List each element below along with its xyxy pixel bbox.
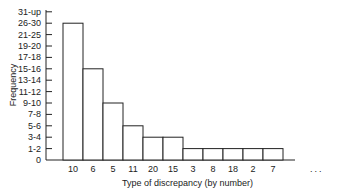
y-tick-label: 17-18 bbox=[1, 52, 41, 62]
x-category-label: 10 bbox=[63, 164, 83, 174]
histogram-bar bbox=[163, 137, 183, 160]
y-axis-label: Frequency bbox=[8, 64, 18, 107]
y-tick-label: 21-25 bbox=[1, 30, 41, 40]
y-tick-label: 26-30 bbox=[1, 18, 41, 28]
y-tick-label: 5-6 bbox=[1, 121, 41, 131]
x-category-label: 7 bbox=[263, 164, 283, 174]
x-category-label: 2 bbox=[243, 164, 263, 174]
x-category-label: 5 bbox=[103, 164, 123, 174]
histogram-bar bbox=[63, 23, 83, 160]
y-tick-label: 9-10 bbox=[1, 98, 41, 108]
x-category-label: 11 bbox=[123, 164, 143, 174]
y-tick-label: 31-up bbox=[1, 7, 41, 17]
x-category-label: 6 bbox=[83, 164, 103, 174]
histogram-bar bbox=[123, 126, 143, 160]
histogram-chart: 01-23-45-67-89-1011-1213-1415-1617-1819-… bbox=[0, 0, 345, 193]
histogram-bar bbox=[223, 149, 243, 160]
y-tick-label: 0 bbox=[1, 155, 41, 165]
y-tick-label: 11-12 bbox=[1, 87, 41, 97]
y-tick-label: 3-4 bbox=[1, 132, 41, 142]
x-axis-label: Type of discrepancy (by number) bbox=[122, 178, 253, 188]
histogram-bar bbox=[103, 103, 123, 160]
y-tick-label: 7-8 bbox=[1, 109, 41, 119]
x-category-label: 18 bbox=[223, 164, 243, 174]
histogram-bar bbox=[263, 149, 283, 160]
x-category-label: 15 bbox=[163, 164, 183, 174]
histogram-bar bbox=[83, 69, 103, 160]
x-category-label: 8 bbox=[203, 164, 223, 174]
y-tick-label: 1-2 bbox=[1, 144, 41, 154]
trailing-ellipsis: ... bbox=[310, 164, 324, 174]
histogram-bar bbox=[143, 137, 163, 160]
y-tick-label: 13-14 bbox=[1, 75, 41, 85]
x-category-label: 20 bbox=[143, 164, 163, 174]
histogram-bar bbox=[183, 149, 203, 160]
x-category-label: 3 bbox=[183, 164, 203, 174]
histogram-bar bbox=[243, 149, 263, 160]
y-tick-label: 15-16 bbox=[1, 64, 41, 74]
histogram-bar bbox=[203, 149, 223, 160]
y-tick-label: 19-20 bbox=[1, 41, 41, 51]
